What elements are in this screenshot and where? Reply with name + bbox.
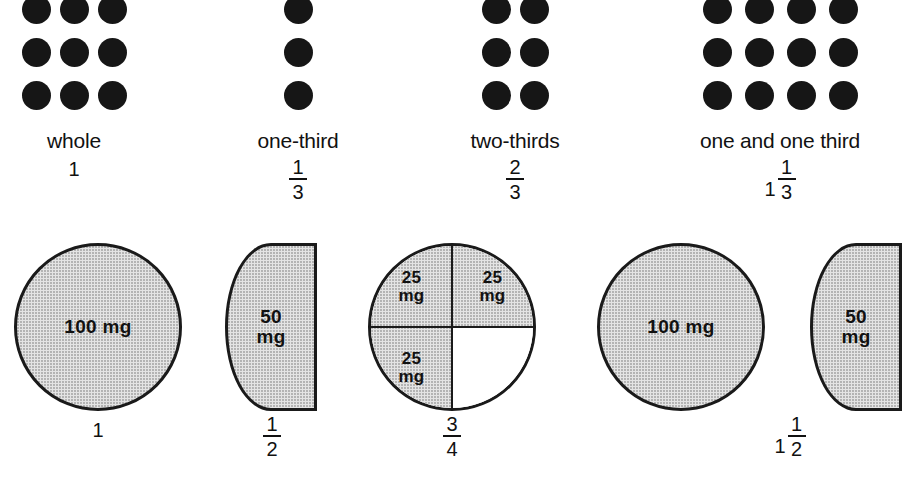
dot — [284, 0, 313, 24]
dot-grid — [440, 0, 590, 117]
dot — [745, 81, 774, 110]
mixed-whole: 1 — [774, 436, 785, 459]
tablet-three-quarters: 25 mg 25 mg 25 mg — [368, 243, 536, 411]
tablet-segment-bottom-left: 25 mg — [371, 327, 452, 408]
dot — [22, 0, 51, 24]
fraction-denominator: 3 — [778, 180, 795, 202]
dot-group-one-and-one-third: one and one third 1 1 3 — [668, 0, 892, 202]
dot-group-value: 1 3 — [228, 157, 368, 202]
tablet-caption-three-fourths: 3 4 — [417, 414, 487, 459]
tablet-segment-top-left: 25 mg — [371, 246, 452, 327]
dot — [482, 0, 511, 24]
dot-group-two-thirds: two-thirds 2 3 — [440, 0, 590, 202]
tablet-dose-label: 50 mg — [228, 307, 314, 347]
fraction: 2 3 — [506, 157, 524, 202]
caption-value: 1 2 — [237, 414, 307, 459]
fraction-numerator: 2 — [506, 157, 523, 178]
fraction-denominator: 4 — [443, 437, 460, 459]
segment-dose-label: 25 mg — [371, 268, 452, 305]
tablet-half-50mg: 50 mg — [225, 243, 317, 411]
tablet-whole-100mg-second: 100 mg — [597, 243, 765, 411]
dot — [703, 0, 732, 24]
fraction-numerator: 1 — [778, 157, 795, 178]
dot — [22, 81, 51, 110]
dot — [745, 0, 774, 24]
tablet-dose-label: 100 mg — [17, 317, 179, 337]
tablet-segment-top-right: 25 mg — [452, 246, 533, 327]
tablet-caption-one-and-one-half: 1 1 2 — [755, 414, 825, 459]
tablet-caption-one: 1 — [14, 420, 182, 440]
fraction-denominator: 2 — [788, 437, 805, 459]
dot — [482, 38, 511, 67]
caption-value: 1 — [14, 420, 182, 440]
fraction-numerator: 1 — [289, 157, 306, 178]
dot — [60, 81, 89, 110]
tablet-whole-100mg: 100 mg — [14, 243, 182, 411]
dot-group-whole: whole 1 — [0, 0, 148, 179]
dot — [98, 0, 127, 24]
fraction-denominator: 3 — [506, 180, 523, 202]
dot-grid — [668, 0, 892, 117]
dot — [829, 38, 858, 67]
dot-group-value: 2 3 — [440, 157, 590, 202]
dot — [745, 38, 774, 67]
fraction: 1 3 — [289, 157, 307, 202]
dot — [284, 81, 313, 110]
fraction-denominator: 3 — [289, 180, 306, 202]
fraction-numerator: 3 — [443, 414, 460, 435]
dot — [520, 0, 549, 24]
fraction: 1 2 — [263, 414, 281, 459]
tablet-half-50mg-second: 50 mg — [810, 243, 902, 411]
dot — [482, 81, 511, 110]
dot — [60, 38, 89, 67]
dot — [787, 81, 816, 110]
dot — [98, 38, 127, 67]
dot — [829, 0, 858, 24]
dot — [520, 38, 549, 67]
tablet-dose-label: 50 mg — [813, 307, 899, 347]
dot-group-caption: one and one third — [668, 129, 892, 153]
dot — [787, 0, 816, 24]
tablet-dose-label: 100 mg — [600, 317, 762, 337]
dot-group-caption: whole — [0, 129, 148, 153]
segment-dose-label: 25 mg — [371, 349, 452, 386]
tablet-divider-horizontal — [371, 326, 533, 328]
tablet-segment-bottom-right — [452, 327, 533, 408]
caption-value: 3 4 — [417, 414, 487, 459]
dot — [520, 81, 549, 110]
dot-group-caption: one-third — [228, 129, 368, 153]
fraction: 3 4 — [443, 414, 461, 459]
fraction-numerator: 1 — [788, 414, 805, 435]
caption-value: 1 1 2 — [755, 414, 825, 459]
fraction-denominator: 2 — [263, 437, 280, 459]
dot — [787, 38, 816, 67]
segment-dose-label: 25 mg — [452, 268, 533, 305]
dot-group-one-third: one-third 1 3 — [228, 0, 368, 202]
tablet-caption-one-half: 1 2 — [237, 414, 307, 459]
dot — [703, 81, 732, 110]
dot — [60, 0, 89, 24]
dot-group-value: 1 1 3 — [668, 157, 892, 202]
fraction: 1 2 — [788, 414, 806, 459]
fraction: 1 3 — [778, 157, 796, 202]
dot — [98, 81, 127, 110]
fraction-numerator: 1 — [263, 414, 280, 435]
dot — [703, 38, 732, 67]
dot-group-caption: two-thirds — [440, 129, 590, 153]
mixed-whole: 1 — [764, 179, 775, 202]
dot-group-value: 1 — [0, 159, 148, 179]
dot — [829, 81, 858, 110]
dot — [284, 38, 313, 67]
dot-grid — [228, 0, 368, 117]
dot — [22, 38, 51, 67]
dot-grid — [0, 0, 148, 117]
